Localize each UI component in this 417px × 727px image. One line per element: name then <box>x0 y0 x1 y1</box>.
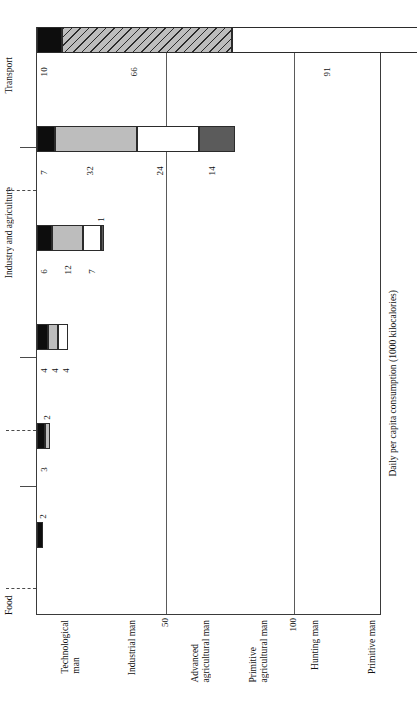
value-label-b1s0: 7 <box>39 170 49 175</box>
value-label-b0s1: 66 <box>129 67 139 76</box>
value-label-b1s2: 24 <box>155 166 165 175</box>
category-label-hunting-man: Hunting man <box>310 620 321 670</box>
bar-industrial-man[interactable] <box>37 126 235 152</box>
value-label-b4s0: 3 <box>39 467 49 472</box>
bar-segment-food[interactable] <box>37 225 52 251</box>
bar-segment-transport[interactable] <box>199 126 235 152</box>
value-label-b4s1: 2 <box>42 415 52 420</box>
value-label-b3s2: 4 <box>61 368 71 373</box>
zone-label-transport: Transport <box>4 57 14 94</box>
bar-segment-industry[interactable] <box>83 225 101 251</box>
bar-advanced-agricultural-man[interactable] <box>37 225 104 251</box>
category-label-primitive-agricultural-man: Primitive agricultural man <box>248 620 269 683</box>
value-label-b2s2: 7 <box>87 269 97 274</box>
bar-technological-man[interactable] <box>37 27 417 53</box>
value-label-b0s0: 10 <box>39 67 49 76</box>
bar-segment-home[interactable] <box>48 324 58 350</box>
bar-segment-food[interactable] <box>37 27 62 53</box>
value-label-b2s0: 6 <box>39 269 49 274</box>
bar-segment-home[interactable] <box>45 423 50 449</box>
category-label-industrial-man: Industrial man <box>127 620 138 675</box>
value-axis-title: Daily per capita consumption (1000 kiloc… <box>388 290 398 477</box>
bar-segment-industry[interactable] <box>137 126 199 152</box>
value-label-b5s0: 2 <box>38 514 48 519</box>
zone-label-group: Food Industry and agriculture Transport <box>0 27 36 615</box>
bar-segment-food[interactable] <box>37 324 48 350</box>
chart-canvas: Food Industry and agriculture Transport … <box>0 0 417 727</box>
gridline-50 <box>166 28 167 614</box>
zone-divider-industry-lower <box>6 430 36 431</box>
zone-label-industry: Industry and agriculture <box>4 187 14 278</box>
bar-primitive-agricultural-man[interactable] <box>37 324 68 350</box>
bar-segment-transport[interactable] <box>101 225 104 251</box>
gridline-100 <box>294 28 295 614</box>
zone-label-food: Food <box>4 487 14 615</box>
zone-tick-b <box>20 357 36 358</box>
category-label-technological-man: Technological man <box>60 620 81 674</box>
bar-segment-food[interactable] <box>37 126 55 152</box>
zone-divider-transport <box>6 190 36 191</box>
category-label-primitive-man: Primitive man <box>367 620 378 674</box>
bar-segment-home[interactable] <box>62 27 232 53</box>
value-label-b3s1: 4 <box>50 368 60 373</box>
value-label-b2s1: 12 <box>63 265 73 274</box>
bar-primitive-man[interactable] <box>37 522 43 548</box>
value-label-b0s2: 91 <box>322 67 332 76</box>
value-label-b3s0: 4 <box>39 368 49 373</box>
category-axis: Technological man Industrial man Advance… <box>36 620 381 727</box>
zone-tick-a <box>20 486 36 487</box>
bar-segment-food[interactable] <box>37 423 45 449</box>
plot-area: 10 66 91 63 7 32 24 14 6 12 7 1 <box>36 27 381 615</box>
category-label-advanced-agricultural-man: Advanced agricultural man <box>190 620 211 683</box>
zone-divider-food <box>6 588 36 589</box>
bar-hunting-man[interactable] <box>37 423 50 449</box>
value-label-b1s1: 32 <box>85 166 95 175</box>
zone-tick-c <box>20 147 36 148</box>
bar-segment-industry[interactable] <box>232 27 417 53</box>
bar-segment-home[interactable] <box>55 126 137 152</box>
value-label-b2s3: 1 <box>96 217 106 222</box>
value-label-b1s3: 14 <box>207 166 217 175</box>
bar-segment-home[interactable] <box>52 225 83 251</box>
bar-segment-food[interactable] <box>37 522 43 548</box>
bar-segment-industry[interactable] <box>58 324 68 350</box>
